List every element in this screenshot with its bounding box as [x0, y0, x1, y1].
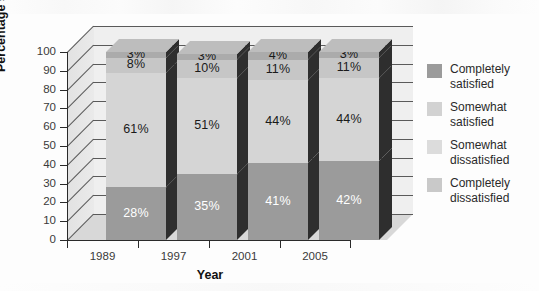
segment-side-face — [379, 148, 392, 240]
value-label-2005-1: 44% — [319, 112, 379, 126]
legend-label-line2: satisfied — [450, 77, 539, 92]
chart-root: Percentage satisfied 28%61%8%3%35%51%10%… — [0, 0, 539, 291]
legend-label-1: Somewhatsatisfied — [450, 100, 539, 129]
y-tick-label-50: 50 — [0, 139, 56, 151]
x-tick-label-1997: 1997 — [144, 250, 204, 262]
y-tick-label-90: 90 — [0, 64, 56, 76]
y-tick-label-20: 20 — [0, 195, 56, 207]
y-tick-label-70: 70 — [0, 101, 56, 113]
bar-top-face-1989 — [106, 39, 166, 52]
legend-item-1[interactable]: Somewhatsatisfied — [427, 100, 539, 130]
y-tick-10 — [60, 221, 67, 222]
value-label-2001-1: 44% — [248, 114, 308, 128]
bar-2005[interactable]: 42%44%11%3% — [319, 52, 379, 240]
legend-label-line2: dissatisfied — [450, 191, 539, 206]
legend-label-2: Somewhatdissatisfied — [450, 138, 539, 167]
scan-artifact-top — [0, 0, 539, 14]
y-tick-20 — [60, 202, 67, 203]
y-tick-label-0: 0 — [0, 233, 56, 245]
y-tick-50 — [60, 146, 67, 147]
y-tick-70 — [60, 108, 67, 109]
segment-side-face — [379, 65, 392, 161]
value-label-2001-2: 11% — [248, 62, 308, 76]
y-tick-80 — [60, 90, 67, 91]
value-label-1997-2: 10% — [177, 61, 237, 75]
y-tick-90 — [60, 71, 67, 72]
legend-label-line2: dissatisfied — [450, 153, 539, 168]
y-axis-title: Percentage satisfied — [0, 0, 8, 72]
y-tick-label-40: 40 — [0, 158, 56, 170]
value-label-2001-0: 41% — [248, 194, 308, 208]
legend-item-2[interactable]: Somewhatdissatisfied — [427, 138, 539, 168]
value-label-1989-0: 28% — [106, 206, 166, 220]
x-axis-title: Year — [0, 268, 420, 282]
bar-1997[interactable]: 35%51%10%3% — [177, 52, 237, 240]
legend-swatch-0 — [427, 64, 442, 78]
y-tick-label-60: 60 — [0, 120, 56, 132]
legend-label-3: Completelydissatisfied — [450, 176, 539, 205]
legend-item-3[interactable]: Completelydissatisfied — [427, 176, 539, 206]
x-tick-0 — [67, 240, 68, 248]
x-tick-label-2005: 2005 — [285, 250, 345, 262]
bar-top-face-1997 — [177, 41, 237, 54]
legend-swatch-3 — [427, 178, 442, 192]
x-tick-1 — [138, 240, 139, 248]
legend-label-line2: satisfied — [450, 115, 539, 130]
value-label-2005-2: 11% — [319, 60, 379, 74]
legend-swatch-2 — [427, 140, 442, 154]
x-tick-label-2001: 2001 — [215, 250, 275, 262]
y-tick-label-100: 100 — [0, 45, 56, 57]
legend-label-line1: Somewhat — [450, 138, 539, 153]
bar-top-face-2005 — [319, 39, 379, 52]
y-tick-label-80: 80 — [0, 83, 56, 95]
value-label-1997-0: 35% — [177, 199, 237, 213]
y-tick-0 — [60, 240, 67, 241]
y-tick-label-10: 10 — [0, 214, 56, 226]
value-label-1997-1: 51% — [177, 118, 237, 132]
y-tick-40 — [60, 165, 67, 166]
chart-legend: CompletelysatisfiedSomewhatsatisfiedSome… — [427, 62, 539, 214]
y-tick-100 — [60, 52, 67, 53]
y-tick-30 — [60, 184, 67, 185]
value-label-1989-1: 61% — [106, 122, 166, 136]
scan-artifact-bottom — [0, 283, 539, 291]
legend-swatch-1 — [427, 102, 442, 116]
y-axis-line — [67, 52, 68, 240]
plot-area-3d: 28%61%8%3%35%51%10%3%41%44%11%4%42%44%11… — [67, 26, 413, 240]
y-tick-label-30: 30 — [0, 177, 56, 189]
x-tick-3 — [280, 240, 281, 248]
bar-1989[interactable]: 28%61%8%3% — [106, 52, 166, 240]
x-tick-2 — [209, 240, 210, 248]
gridline-100 — [93, 26, 413, 27]
y-tick-60 — [60, 127, 67, 128]
legend-label-line1: Completely — [450, 176, 539, 191]
legend-item-0[interactable]: Completelysatisfied — [427, 62, 539, 92]
bar-top-face-2001 — [248, 39, 308, 52]
value-label-2005-0: 42% — [319, 193, 379, 207]
legend-label-0: Completelysatisfied — [450, 62, 539, 91]
legend-label-line1: Somewhat — [450, 100, 539, 115]
x-tick-label-1989: 1989 — [73, 250, 133, 262]
legend-label-line1: Completely — [450, 62, 539, 77]
bar-2001[interactable]: 41%44%11%4% — [248, 52, 308, 240]
x-tick-4 — [350, 240, 351, 248]
